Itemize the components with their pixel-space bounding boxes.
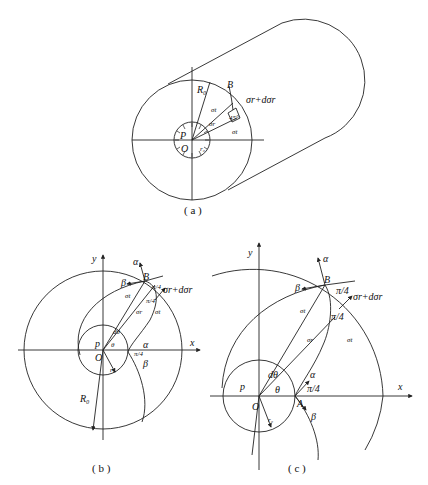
label-O-a: O [181, 143, 188, 154]
label-pi4-top-b: π/4 [152, 283, 161, 291]
caption-a: ( a ) [184, 204, 202, 217]
label-B-c: B [324, 274, 330, 285]
label-sigma-r-d-c: σr+dσr [353, 291, 383, 302]
label-alpha-A-c: α [310, 369, 316, 380]
label-sigma-t-right-c: σt [347, 336, 353, 344]
label-y-c: y [247, 247, 253, 258]
label-R0-a: R₀ [196, 84, 207, 95]
label-beta-A-b: β [142, 358, 148, 369]
label-sigma-t-left-b: σt [125, 292, 131, 300]
label-pi4-top-c: π/4 [336, 285, 349, 296]
label-r0-a: r₀ [200, 145, 206, 153]
label-r0-b: r₀ [110, 366, 116, 374]
label-alpha-A-b: α [143, 339, 149, 350]
label-sigma-r-d-b: σr+dσr [163, 284, 193, 295]
label-B-a: B [227, 79, 233, 90]
label-sigma-t-right-b: σt [155, 308, 161, 316]
label-sigma-t-top-a: σt [211, 106, 217, 114]
label-O-c: O [252, 401, 259, 412]
label-sigma-r-d-a: σr+dσr [246, 94, 276, 105]
figure-a: R₀ B σr+dσr σt σt σr 45° P O r₀ ( a ) [132, 19, 365, 217]
cylinder-top-edge [168, 23, 282, 84]
label-beta-top-c: β [294, 282, 300, 293]
label-A-c: A [296, 398, 304, 409]
label-r0-c: r₀ [268, 416, 274, 424]
label-sigma-r-c: σr [307, 336, 313, 344]
figure-c: y x α β B π/4 σr+dσr σt π/4 σr σt dθ θ p… [210, 243, 412, 475]
label-pi4-mid-c: π/4 [331, 311, 344, 322]
label-sigma-t-left-c: σt [300, 307, 306, 315]
figure-b: y x α β B π/4 σr+dσr σt π/4 σr σt dθ θ p… [18, 253, 200, 475]
label-y-b: y [91, 253, 97, 264]
label-alpha-top-b: α [133, 256, 139, 267]
label-beta-top-b: β [120, 277, 126, 288]
label-beta-A-c: β [310, 411, 316, 422]
label-pi4-mid-b: π/4 [146, 297, 155, 305]
label-alpha-top-c: α [323, 253, 329, 264]
label-dtheta-c: dθ [268, 369, 278, 380]
radial-2-c [259, 317, 335, 396]
label-pi4-A-b: π/4 [134, 350, 143, 358]
label-P-a: P [179, 130, 186, 141]
label-theta-b: θ [111, 341, 115, 349]
caption-c: ( c ) [288, 462, 306, 475]
label-p-b: p [94, 338, 100, 349]
outer-arc-c-2 [365, 396, 383, 450]
label-pi4-A-c: π/4 [307, 383, 320, 394]
label-x-b: x [189, 337, 195, 348]
diagram-canvas: R₀ B σr+dσr σt σt σr 45° P O r₀ ( a ) y … [0, 0, 428, 485]
label-B-b: B [143, 271, 149, 282]
label-sigma-r-a: σr [209, 120, 215, 128]
label-sigma-r-b: σr [136, 308, 142, 316]
cylinder-bottom-edge [228, 138, 325, 190]
label-R0-b: R₀ [79, 393, 90, 404]
cylinder-end-arc [282, 19, 365, 138]
caption-b: ( b ) [92, 462, 111, 475]
label-x-c: x [397, 381, 403, 392]
label-O-b: O [95, 352, 102, 363]
label-theta-c: θ [275, 384, 280, 395]
label-dtheta-b: dθ [113, 328, 121, 336]
label-p-c: p [239, 381, 245, 392]
sigma-r-d-arrow-c [339, 296, 352, 309]
label-sigma-t-a: σt [232, 128, 238, 136]
label-45-a: 45° [229, 114, 239, 122]
